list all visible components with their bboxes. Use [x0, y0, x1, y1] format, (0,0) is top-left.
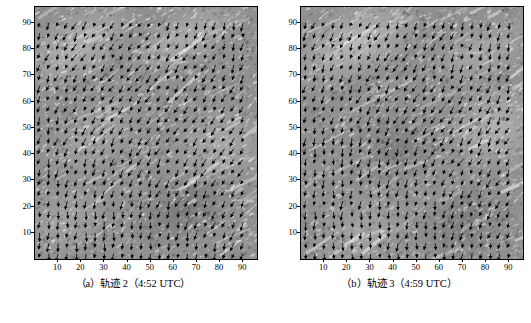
- x-tick-label: 10: [53, 263, 62, 272]
- figure-root: 102030405060708090 102030405060708090 （a…: [0, 0, 531, 323]
- y-tick-label: 20: [23, 202, 32, 211]
- x-tick-label: 50: [411, 263, 420, 272]
- caption-b: （b）轨迹 3（4:59 UTC）: [274, 278, 524, 290]
- x-tick-mark: [196, 259, 197, 262]
- y-tick-label: 70: [289, 70, 298, 79]
- y-tick-label: 40: [289, 149, 298, 158]
- y-tick-label: 80: [23, 44, 32, 53]
- y-axis-b: 102030405060708090: [274, 6, 300, 258]
- x-tick-label: 90: [238, 263, 247, 272]
- x-tick-label: 80: [481, 263, 490, 272]
- y-tick-label: 40: [23, 149, 32, 158]
- y-tick-label: 60: [23, 97, 32, 106]
- y-axis-a: 102030405060708090: [8, 6, 34, 258]
- x-tick-label: 20: [76, 263, 85, 272]
- panel-a: 102030405060708090 102030405060708090 （a…: [8, 6, 258, 272]
- y-tick-label: 60: [289, 97, 298, 106]
- y-tick-label: 10: [23, 228, 32, 237]
- x-axis-b: 102030405060708090: [300, 259, 522, 273]
- image-plot-a: [34, 6, 258, 260]
- panel-b: 102030405060708090 102030405060708090 （b…: [274, 6, 524, 272]
- x-tick-mark: [57, 259, 58, 262]
- x-tick-mark: [127, 259, 128, 262]
- x-tick-label: 80: [215, 263, 224, 272]
- x-tick-mark: [508, 259, 509, 262]
- y-tick-label: 30: [289, 175, 298, 184]
- x-tick-label: 30: [99, 263, 108, 272]
- x-tick-mark: [462, 259, 463, 262]
- x-tick-mark: [346, 259, 347, 262]
- y-tick-label: 70: [23, 70, 32, 79]
- y-tick-label: 50: [23, 123, 32, 132]
- x-tick-label: 60: [435, 263, 444, 272]
- x-tick-label: 30: [365, 263, 374, 272]
- x-tick-label: 70: [458, 263, 467, 272]
- x-tick-label: 20: [342, 263, 351, 272]
- vector-field-a: [35, 7, 257, 259]
- x-tick-mark: [103, 259, 104, 262]
- x-tick-label: 60: [169, 263, 178, 272]
- vector-field-b: [301, 7, 523, 259]
- x-tick-mark: [416, 259, 417, 262]
- x-tick-label: 10: [319, 263, 328, 272]
- image-plot-b: [300, 6, 524, 260]
- y-tick-label: 50: [289, 123, 298, 132]
- x-axis-a: 102030405060708090: [34, 259, 256, 273]
- x-tick-mark: [485, 259, 486, 262]
- y-tick-label: 20: [289, 202, 298, 211]
- x-tick-mark: [219, 259, 220, 262]
- y-tick-label: 90: [289, 18, 298, 27]
- x-tick-mark: [242, 259, 243, 262]
- x-tick-mark: [80, 259, 81, 262]
- x-tick-label: 40: [122, 263, 131, 272]
- x-tick-mark: [369, 259, 370, 262]
- caption-a: （a）轨迹 2（4:52 UTC）: [8, 278, 258, 290]
- x-tick-label: 90: [504, 263, 513, 272]
- x-tick-mark: [150, 259, 151, 262]
- x-tick-label: 50: [145, 263, 154, 272]
- x-tick-label: 40: [388, 263, 397, 272]
- y-tick-label: 30: [23, 175, 32, 184]
- x-tick-mark: [173, 259, 174, 262]
- plot-b: 102030405060708090 102030405060708090 （b…: [274, 6, 524, 272]
- x-tick-mark: [393, 259, 394, 262]
- plot-a: 102030405060708090 102030405060708090 （a…: [8, 6, 258, 272]
- y-tick-label: 80: [289, 44, 298, 53]
- x-tick-mark: [439, 259, 440, 262]
- y-tick-label: 10: [289, 228, 298, 237]
- y-tick-label: 90: [23, 18, 32, 27]
- x-tick-label: 70: [192, 263, 201, 272]
- x-tick-mark: [323, 259, 324, 262]
